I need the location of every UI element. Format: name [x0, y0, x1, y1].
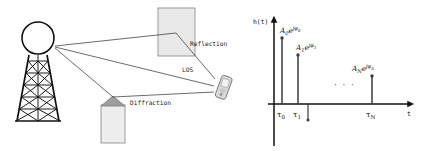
channel-impulse-response-panel: h(t) t · · · A0 [248, 0, 422, 151]
ray-diffraction-incident [55, 48, 113, 97]
tick-label-tau-1: τ1 [293, 110, 301, 120]
tick-n-sub: N [370, 114, 375, 120]
tick-1-sub: 1 [297, 114, 301, 120]
tick-0-sub: 0 [281, 114, 285, 120]
amp-0-exp-sub: 0 [298, 28, 301, 33]
tick-mark-tau-1-dot [307, 119, 310, 122]
amp-n-exp-sub: N [370, 66, 375, 71]
tick-label-tau-n: τN [366, 110, 375, 120]
stem-tau-1 [296, 53, 299, 104]
stem-ellipsis: · · · [334, 80, 355, 90]
label-los: LOS [182, 66, 193, 73]
x-axis-label: t [407, 110, 411, 118]
label-reflection: Reflection [190, 40, 228, 47]
ray-diffraction-bent [113, 92, 214, 97]
base-station-tower [15, 22, 61, 121]
stem-tau-0 [280, 36, 283, 104]
mobile-handset [215, 75, 233, 100]
stem-tau-n [370, 74, 373, 104]
figure-root: Reflection LOS Diffraction h(t) t [0, 0, 422, 151]
tower-antenna-dish [22, 22, 54, 54]
tick-label-tau-0: τ0 [277, 110, 285, 120]
amp-1-exp-sub: 1 [314, 45, 316, 50]
propagation-scene-panel: Reflection LOS Diffraction [0, 0, 248, 151]
annotation-amp-1: A1ejφ1 [295, 42, 316, 52]
annotation-amp-n: ANejφN [351, 63, 375, 73]
label-diffraction: Diffraction [130, 99, 171, 106]
annotation-amp-0: A0ejφ0 [279, 25, 301, 35]
y-axis-label: h(t) [253, 18, 268, 26]
diffractor-building [101, 96, 125, 143]
